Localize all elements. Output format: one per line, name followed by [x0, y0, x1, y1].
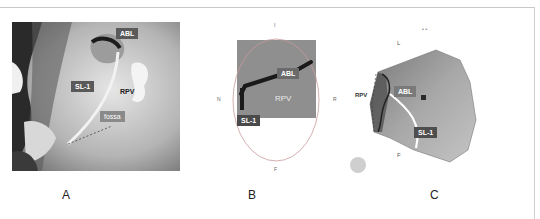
panel-b-label-sl1: SL-1 [237, 115, 260, 126]
panel-b-orient-top: I [274, 22, 275, 28]
panel-a-label-abl: ABL [116, 28, 138, 39]
panel-b-label-rpv: RPV [275, 94, 291, 103]
panel-a-letter: A [62, 188, 70, 202]
panel-c-orient-top: L [397, 40, 400, 46]
panel-a-label-rpv: RPV [120, 88, 134, 95]
panel-a-endoscopic-image [12, 22, 180, 171]
panel-b-orient-bottom: F [274, 166, 277, 172]
panel-b-letter: B [248, 188, 256, 202]
panel-c-electroanatomic-map [340, 20, 530, 180]
panel-c-label-abl: ABL [394, 86, 416, 97]
panel-b-label-abl: ABL [277, 68, 299, 79]
panel-b-orient-left: N [217, 96, 221, 102]
panel-a-label-sl1: SL-1 [71, 81, 94, 92]
panel-c-orient-bottom: F [397, 152, 401, 158]
panel-c-label-sl1: SL-1 [414, 127, 437, 138]
figure-top-border [0, 7, 534, 8]
panel-a-label-fossa: fossa [100, 111, 125, 122]
panel-c-label-rpv: RPV [355, 92, 367, 98]
panel-b: I F N R ABL RPV SL-1 [215, 18, 355, 178]
figure-right-border [534, 7, 535, 219]
panel-c-dots-marker: • • [422, 26, 427, 32]
panel-b-orient-right: R [333, 96, 337, 102]
panel-c-letter: C [430, 188, 439, 202]
panel-a: ABL SL-1 RPV fossa [12, 22, 180, 171]
panel-c: • • L F ABL RPV SL-1 [340, 20, 530, 180]
